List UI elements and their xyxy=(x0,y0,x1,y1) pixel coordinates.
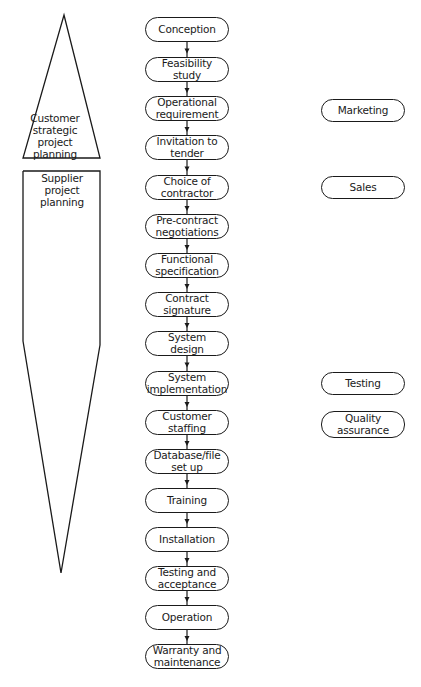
stage-label: Training xyxy=(167,495,207,507)
stage-label: Contract signature xyxy=(150,293,224,316)
stage-label: Customer staffing xyxy=(150,411,224,434)
supplier-planning-shape xyxy=(23,171,100,573)
side-function-label: Quality assurance xyxy=(326,413,400,436)
stage-box: System design xyxy=(145,331,229,356)
arrow-down-icon xyxy=(185,363,190,368)
supplier-planning-label: Supplier project planning xyxy=(25,172,99,208)
arrow-down-icon xyxy=(185,284,190,289)
side-function-box: Quality assurance xyxy=(321,411,405,438)
customer-planning-label: Customer strategic project planning xyxy=(23,112,87,160)
arrow-down-icon xyxy=(185,167,190,172)
arrow-down-icon xyxy=(185,480,190,485)
stage-label: Functional specification xyxy=(150,254,224,277)
stage-box: Conception xyxy=(145,17,229,42)
stage-box: Operational requirement xyxy=(145,96,229,121)
arrow-down-icon xyxy=(185,441,190,446)
arrow-down-icon xyxy=(185,636,190,641)
side-function-label: Sales xyxy=(350,182,377,194)
side-function-label: Marketing xyxy=(338,105,389,117)
stage-box: Functional specification xyxy=(145,253,229,278)
arrow-down-icon xyxy=(185,245,190,250)
stage-label: Installation xyxy=(159,534,215,546)
side-function-box: Sales xyxy=(321,176,405,199)
arrow-down-icon xyxy=(185,206,190,211)
stage-label: System implementation xyxy=(147,372,227,395)
arrow-down-icon xyxy=(185,323,190,328)
stage-label: Testing and acceptance xyxy=(150,567,224,590)
arrow-down-icon xyxy=(185,597,190,602)
stage-label: Invitation to tender xyxy=(150,136,224,159)
stage-box: Database/file set up xyxy=(145,449,229,474)
stage-box: Testing and acceptance xyxy=(145,566,229,591)
stage-label: Choice of contractor xyxy=(150,176,224,199)
stage-box: System implementation xyxy=(145,371,229,396)
stage-box: Contract signature xyxy=(145,292,229,317)
arrow-down-icon xyxy=(185,402,190,407)
stage-label: System design xyxy=(150,332,224,355)
stage-label: Pre-contract negotiations xyxy=(150,215,224,238)
arrow-down-icon xyxy=(185,127,190,132)
stage-box: Customer staffing xyxy=(145,410,229,435)
stage-box: Warranty and maintenance xyxy=(145,644,229,669)
stage-box: Operation xyxy=(145,605,229,630)
stage-label: Database/file set up xyxy=(150,450,224,473)
stage-box: Training xyxy=(145,488,229,513)
stage-label: Operation xyxy=(162,612,212,624)
side-function-label: Testing xyxy=(345,378,381,390)
stage-label: Conception xyxy=(158,24,215,36)
arrow-down-icon xyxy=(185,519,190,524)
stage-box: Installation xyxy=(145,527,229,552)
arrow-down-icon xyxy=(185,558,190,563)
side-function-box: Testing xyxy=(321,372,405,395)
arrow-down-icon xyxy=(185,49,190,54)
stage-label: Operational requirement xyxy=(150,97,224,120)
stage-box: Pre-contract negotiations xyxy=(145,214,229,239)
side-function-box: Marketing xyxy=(321,99,405,122)
stage-label: Feasibility study xyxy=(150,58,224,81)
stage-box: Feasibility study xyxy=(145,57,229,82)
arrow-down-icon xyxy=(185,88,190,93)
stage-box: Choice of contractor xyxy=(145,175,229,200)
stage-label: Warranty and maintenance xyxy=(150,645,224,668)
stage-box: Invitation to tender xyxy=(145,135,229,160)
